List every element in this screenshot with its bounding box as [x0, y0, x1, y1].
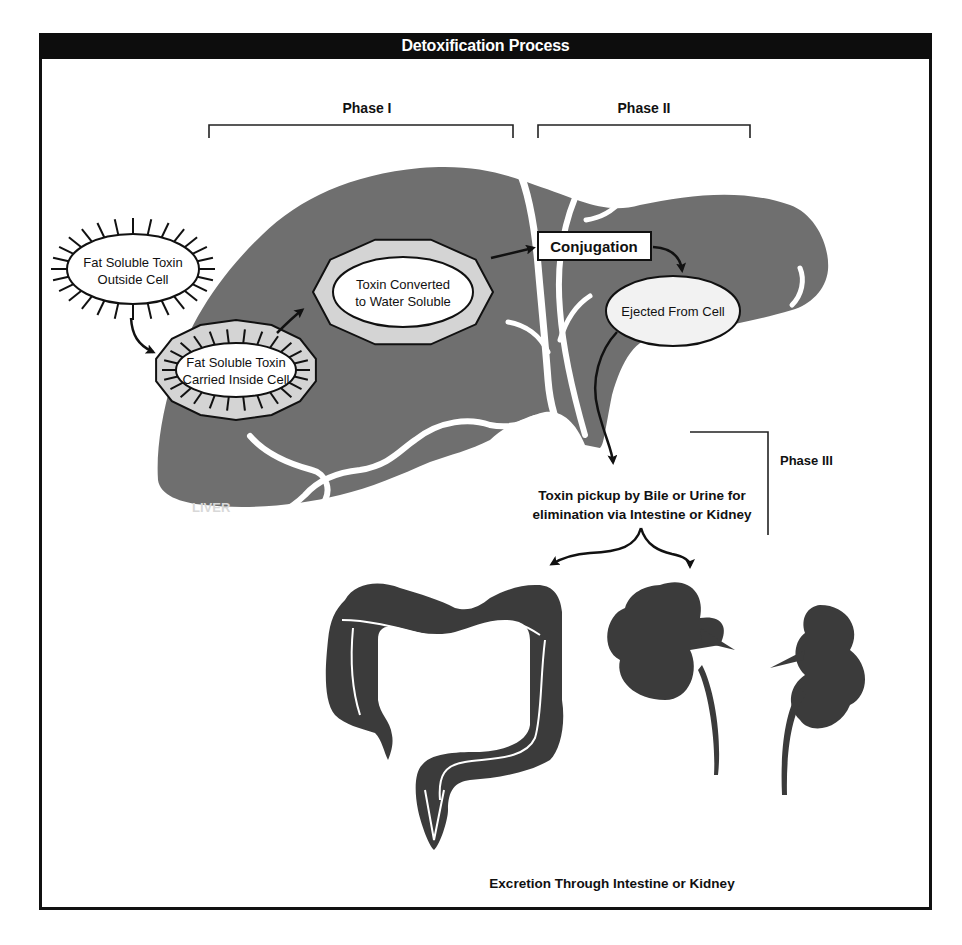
phase-1-bracket	[209, 125, 513, 138]
toxin-converted-line1: Toxin Converted	[356, 277, 450, 292]
spike	[82, 229, 92, 242]
ejected-cell: Ejected From Cell	[606, 276, 740, 346]
spike	[197, 277, 213, 281]
toxin-converted-line2: to Water Soluble	[355, 294, 451, 309]
intestine-icon	[326, 584, 563, 850]
spike	[69, 291, 82, 301]
spike	[148, 303, 152, 319]
kidney-right-icon	[770, 605, 865, 795]
toxin-inside-line1: Fat Soluble Toxin	[186, 355, 286, 370]
spike	[53, 258, 69, 262]
spike	[59, 284, 73, 291]
spike	[59, 247, 73, 254]
phase-1-label: Phase I	[342, 100, 391, 116]
ejected-label: Ejected From Cell	[621, 304, 724, 319]
arrow-pickup-to-kidney	[641, 528, 690, 566]
spike	[115, 303, 119, 319]
spike	[174, 229, 184, 242]
phase-2-label: Phase II	[618, 100, 671, 116]
spike	[82, 296, 92, 309]
spike	[115, 219, 119, 235]
spike	[53, 277, 69, 281]
spike	[97, 223, 104, 237]
toxin-outside-cell: Fat Soluble Toxin Outside Cell	[51, 218, 215, 320]
toxin-outside-line2: Outside Cell	[98, 272, 169, 287]
toxin-inside-cell: Fat Soluble Toxin Carried Inside Cell	[156, 320, 316, 420]
spike	[192, 247, 206, 254]
pickup-text-line1: Toxin pickup by Bile or Urine for	[538, 488, 746, 503]
spike	[174, 296, 184, 309]
spike	[162, 223, 169, 237]
excretion-label: Excretion Through Intestine or Kidney	[489, 876, 735, 891]
pickup-text-line2: elimination via Intestine or Kidney	[532, 507, 752, 522]
conjugation-box: Conjugation	[538, 232, 651, 260]
spike	[197, 258, 213, 262]
arrow-outside-to-inside	[131, 318, 153, 352]
spike	[162, 301, 169, 315]
spike	[185, 237, 198, 247]
toxin-inside-line2: Carried Inside Cell	[183, 372, 290, 387]
spike	[185, 291, 198, 301]
arrow-pickup-to-intestine	[552, 528, 641, 564]
kidney-left-icon	[607, 582, 735, 775]
phase-3-label: Phase III	[780, 453, 833, 468]
spike	[69, 237, 82, 247]
spike	[97, 301, 104, 315]
detox-diagram: Phase I Phase II Phase III LIVER Fat Sol…	[0, 0, 962, 945]
spike	[148, 219, 152, 235]
spike	[192, 284, 206, 291]
liver-label: LIVER	[192, 500, 231, 515]
toxin-converted-cell: Toxin Converted to Water Soluble	[313, 240, 493, 345]
conjugation-label: Conjugation	[550, 238, 637, 255]
phase-2-bracket	[538, 125, 750, 138]
toxin-outside-line1: Fat Soluble Toxin	[83, 255, 183, 270]
